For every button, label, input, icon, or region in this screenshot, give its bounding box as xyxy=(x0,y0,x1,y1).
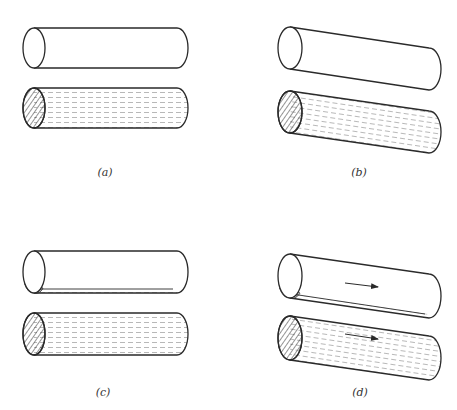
panel-a: (a) xyxy=(23,28,188,179)
panel-c: (c) xyxy=(23,251,188,399)
fluid-fill xyxy=(34,88,188,128)
panel-d: (d) xyxy=(278,254,441,399)
flow-arrow-icon xyxy=(345,283,378,287)
fluid-surface-line xyxy=(292,294,425,314)
cylinder-body xyxy=(34,28,188,68)
fluid-fill xyxy=(34,313,188,355)
top-cylinder xyxy=(23,251,188,293)
cylinder-end-cap xyxy=(23,251,45,293)
cylinder-end-cap xyxy=(23,28,45,68)
bottom-cylinder xyxy=(278,316,441,380)
cylinder-body xyxy=(290,254,441,318)
bottom-cylinder xyxy=(23,313,188,355)
panel-label: (d) xyxy=(352,386,368,399)
bottom-cylinder xyxy=(278,91,441,153)
panel-label: (b) xyxy=(351,166,367,179)
cylinder-end-cap xyxy=(278,254,302,298)
panel-label: (a) xyxy=(97,166,112,179)
top-cylinder xyxy=(278,254,441,318)
figure-canvas: (a)(b)(c)(d) xyxy=(0,0,457,410)
bottom-cylinder xyxy=(23,88,188,128)
cylinder-body xyxy=(34,251,188,293)
top-cylinder xyxy=(278,27,441,90)
top-cylinder xyxy=(23,28,188,68)
panel-label: (c) xyxy=(96,386,111,399)
cylinder-body xyxy=(290,27,441,90)
panel-b: (b) xyxy=(278,27,441,179)
cylinder-end-cap xyxy=(278,27,302,69)
